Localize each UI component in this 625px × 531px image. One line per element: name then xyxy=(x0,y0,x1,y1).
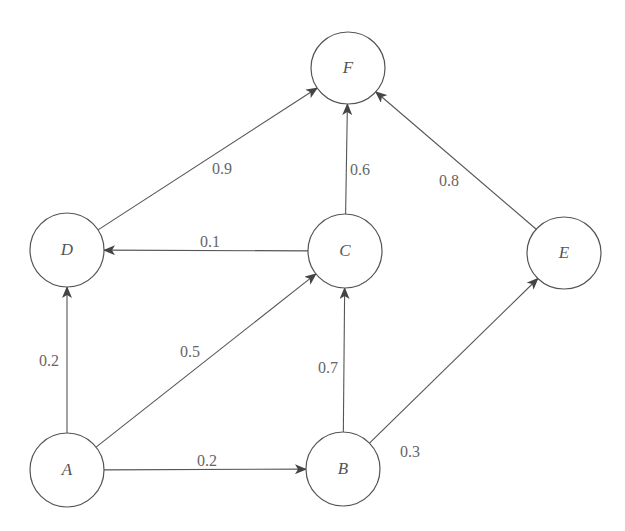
node-c: C xyxy=(308,214,382,288)
arrow-icon xyxy=(98,88,317,230)
nodes: FDCEAB xyxy=(30,32,601,507)
arrow-icon xyxy=(96,274,316,447)
edge-a-to-d: 0.2 xyxy=(39,287,67,433)
edge-d-to-f: 0.9 xyxy=(98,88,317,230)
edge-weight-label: 0.9 xyxy=(212,160,232,177)
arrow-icon xyxy=(343,288,344,432)
edge-weight-label: 0.7 xyxy=(318,359,338,376)
edge-weight-label: 0.5 xyxy=(180,343,200,360)
edges: 0.90.60.80.10.20.50.70.20.3 xyxy=(39,88,538,470)
arrow-icon xyxy=(369,279,537,444)
edge-weight-label: 0.6 xyxy=(350,161,370,178)
node-e: E xyxy=(527,217,601,289)
edge-weight-label: 0.2 xyxy=(197,452,217,469)
edge-e-to-f: 0.8 xyxy=(376,92,536,229)
node-f: F xyxy=(311,32,385,104)
edge-weight-label: 0.8 xyxy=(439,172,459,189)
node-label: E xyxy=(558,243,570,262)
edge-c-to-f: 0.6 xyxy=(346,104,370,214)
node-d: D xyxy=(30,213,104,287)
arrow-icon xyxy=(104,250,308,251)
edge-a-to-c: 0.5 xyxy=(96,274,316,447)
edge-weight-label: 0.2 xyxy=(39,352,59,369)
edge-weight-label: 0.3 xyxy=(400,443,420,460)
arrow-icon xyxy=(376,92,536,229)
node-label: D xyxy=(60,240,74,259)
edge-b-to-c: 0.7 xyxy=(318,288,345,432)
edge-weight-label: 0.1 xyxy=(200,233,220,250)
graph-diagram: 0.90.60.80.10.20.50.70.20.3 FDCEAB xyxy=(0,0,625,531)
node-label: A xyxy=(61,460,73,479)
node-a: A xyxy=(30,433,104,507)
arrow-icon xyxy=(104,469,306,470)
node-b: B xyxy=(306,432,380,506)
edge-b-to-e: 0.3 xyxy=(369,279,537,460)
arrow-icon xyxy=(346,104,348,214)
node-label: F xyxy=(342,58,354,77)
edge-a-to-b: 0.2 xyxy=(104,452,306,470)
node-label: B xyxy=(338,459,349,478)
edge-c-to-d: 0.1 xyxy=(104,233,308,251)
node-label: C xyxy=(339,241,351,260)
